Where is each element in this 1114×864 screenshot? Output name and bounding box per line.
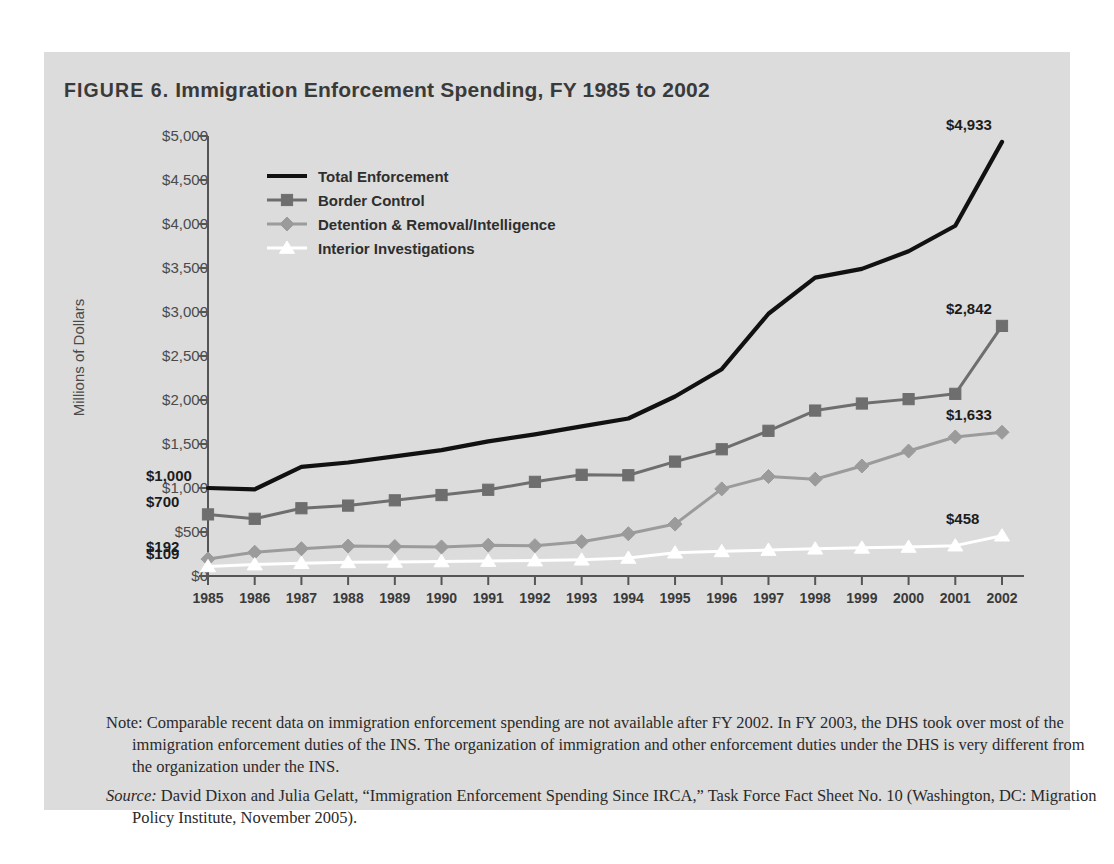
x-tick-label: 1996 [706,590,737,606]
marker-diamond [341,539,355,553]
marker-triangle [994,529,1009,541]
marker-square [716,444,727,455]
figure-title-text: Immigration Enforcement Spending, FY 198… [175,78,710,101]
marker-square [529,476,540,487]
marker-diamond [575,535,589,549]
marker-square [202,509,213,520]
chart-area: Millions of Dollars $0$500$1,000$1,500$2… [44,124,1070,644]
marker-diamond [995,425,1009,439]
figure-number: FIGURE 6. [64,79,169,101]
point-value-label: $458 [946,510,979,527]
x-tick-label: 1986 [239,590,270,606]
figure-panel: FIGURE 6. Immigration Enforcement Spendi… [44,52,1070,810]
marker-square [436,489,447,500]
x-tick-label: 1991 [473,590,504,606]
x-tick-label: 1990 [426,590,457,606]
marker-square [856,398,867,409]
series-interior-investigations [200,529,1009,572]
marker-square [903,394,914,405]
legend-item: Border Control [266,188,556,212]
marker-square [996,320,1007,331]
marker-diamond [481,538,495,552]
series-line [208,432,1002,559]
point-value-label: $109 [146,545,179,562]
marker-diamond [294,542,308,556]
legend-label: Total Enforcement [318,168,449,185]
marker-diamond [435,540,449,554]
marker-diamond [621,527,635,541]
legend-item: Detention & Removal/Intelligence [266,212,556,236]
x-tick-label: 1989 [379,590,410,606]
x-tick-label: 1994 [613,590,644,606]
point-value-label: $1,633 [946,406,992,423]
marker-diamond [902,444,916,458]
x-tick-label: 1992 [519,590,550,606]
series-line [208,536,1002,567]
legend-item: Interior Investigations [266,236,556,260]
figure-notes: Note: Comparable recent data on immigrat… [106,712,1106,837]
x-tick-label: 2000 [893,590,924,606]
legend-swatch-icon [266,239,308,257]
marker-diamond [855,459,869,473]
point-value-label: $1,000 [146,467,192,484]
chart-legend: Total EnforcementBorder ControlDetention… [266,164,556,260]
x-tick-label: 2001 [940,590,971,606]
x-tick-label: 2002 [986,590,1017,606]
marker-diamond [388,540,402,554]
marker-diamond [528,539,542,553]
marker-square [343,500,354,511]
marker-diamond [280,217,294,231]
source-label: Source: [106,786,157,805]
marker-square [950,388,961,399]
source-text: David Dixon and Julia Gelatt, “Immigrati… [132,786,1097,827]
series-detention-removal-intelligence [201,425,1009,566]
marker-square [281,194,292,205]
legend-item: Total Enforcement [266,164,556,188]
legend-swatch-icon [266,191,308,209]
point-value-label: $700 [146,493,179,510]
marker-square [810,405,821,416]
legend-swatch-icon [266,167,308,185]
x-tick-label: 1987 [286,590,317,606]
x-tick-label: 1995 [659,590,690,606]
x-tick-label: 1997 [753,590,784,606]
x-tick-label: 1985 [192,590,223,606]
x-tick-label: 1988 [333,590,364,606]
marker-square [623,470,634,481]
marker-square [483,484,494,495]
marker-square [249,513,260,524]
point-value-label: $4,933 [946,116,992,133]
x-tick-label: 1999 [846,590,877,606]
marker-square [669,456,680,467]
marker-square [763,425,774,436]
x-tick-label: 1993 [566,590,597,606]
marker-square [296,503,307,514]
marker-diamond [808,472,822,486]
figure-title: FIGURE 6. Immigration Enforcement Spendi… [64,78,710,102]
source-paragraph: Source: David Dixon and Julia Gelatt, “I… [106,785,1106,829]
plot-svg [44,124,1070,644]
legend-label: Detention & Removal/Intelligence [318,216,556,233]
marker-diamond [761,470,775,484]
legend-label: Interior Investigations [318,240,475,257]
note-paragraph: Note: Comparable recent data on immigrat… [106,712,1106,777]
marker-diamond [948,430,962,444]
x-tick-label: 1998 [800,590,831,606]
point-value-label: $2,842 [946,300,992,317]
legend-swatch-icon [266,215,308,233]
marker-square [576,469,587,480]
marker-square [389,495,400,506]
legend-label: Border Control [318,192,425,209]
